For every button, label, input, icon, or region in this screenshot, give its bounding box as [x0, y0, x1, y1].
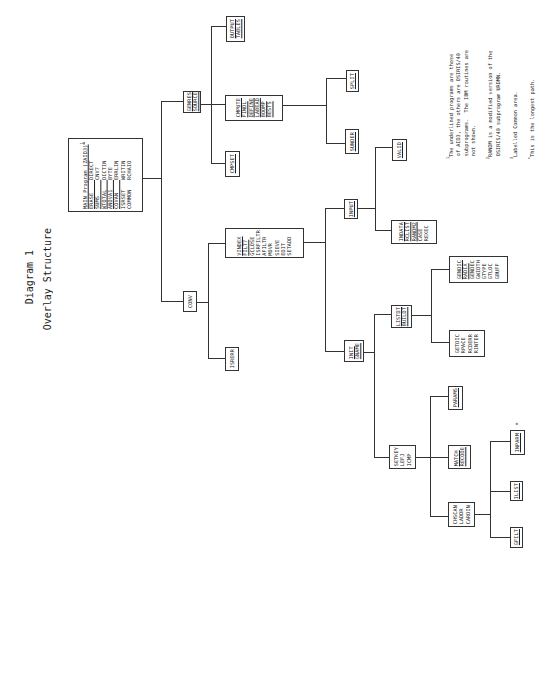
program-name: LADDR [458, 505, 464, 524]
node-genres: GENRESSOURCE [183, 91, 201, 113]
node-input: INPUT [344, 199, 358, 219]
program-name: SUNDER [349, 132, 355, 151]
diagram-subtitle: Overlay Structure [42, 228, 53, 330]
program-name: GFILT [513, 529, 519, 545]
node-ilist: ILIST [510, 481, 523, 501]
program-name: INPUT [348, 201, 354, 217]
program-name: CONV [187, 295, 193, 308]
program-name: SETADD [287, 230, 293, 256]
node-indata-text: INDATARCLISTRANDM2CASEREXEC [398, 222, 429, 241]
program-name: INIT [348, 343, 354, 359]
node-ilist-text: ILIST [513, 483, 519, 499]
program-name: BUILDT [402, 307, 408, 326]
program-name: CMPUTE [235, 98, 241, 117]
program-name: ISRFILTR [255, 230, 261, 256]
program-name: BOOMP [260, 98, 266, 117]
program-name: RINTER [473, 334, 479, 353]
node-valid-text: VALID [396, 142, 402, 158]
node-params-text: PARAMS [452, 388, 458, 407]
program-name: REXEC [423, 222, 429, 241]
node-init: INITGNAME [344, 340, 364, 362]
node-vindex: VINDEXFILT7GCLOSEISRFILTRAFILTRMOVRSIEVE… [225, 228, 304, 258]
program-name: BESTS [267, 98, 273, 117]
node-vindex-text: VINDEXFILT7GCLOSEISRFILTRAFILTRMOVRSIEVE… [236, 230, 293, 256]
program-name: GBUFF [494, 260, 500, 279]
diagram-title: Diagram 1 [24, 250, 35, 304]
node-getdic: GETDICRPACERCDERRRINTER [449, 330, 485, 357]
main-program-box: MAIN Program (ZAID3)1ERASE DIRECTSUMS CN… [68, 138, 143, 212]
program-name: FINDL [241, 98, 247, 117]
node-chscan: CHSCANLADDRCARDIN [448, 502, 475, 527]
program-name: OUTPUT [229, 19, 235, 38]
program-name: TABLES [236, 19, 242, 38]
node-listdt-text: LISTDTBUILDT [395, 307, 408, 326]
node-gendic-text: GENDICRADIXGENDECGWIDTHGTYPEGTLOCGBUFF [456, 260, 500, 279]
node-gendic: GENDICRADIXGENDECGWIDTHGTYPEGTLOCGBUFF [449, 256, 508, 283]
program-name: ISRERR [229, 349, 235, 368]
program-name: MATCH [453, 447, 459, 466]
node-cmpute: CMPUTEFINDLDEFINELABEADBOOMPBESTS [225, 95, 283, 121]
node-chscan-text: CHSCANLADDRCARDIN [452, 505, 471, 524]
node-genres-text: GENRESSOURCE [186, 92, 199, 111]
node-init-text: INITGNAME [348, 343, 361, 359]
node-gfilt: GFILT [510, 527, 523, 548]
program-name: VALID [396, 142, 402, 158]
program-name: INPARM [514, 433, 520, 452]
program-name: ILIST [513, 483, 519, 499]
program-name: GENRES [186, 92, 192, 111]
node-sunder-text: SUNDER [349, 132, 355, 151]
node-isrerr-text: ISRERR [229, 349, 235, 368]
node-inparm: INPARM [510, 430, 525, 455]
node-inparm-text: INPARM [514, 433, 520, 452]
node-output: OUTPUTTABLES [226, 16, 245, 42]
node-setkey-text: SETKEYLEFJICMP [393, 447, 412, 466]
node-cmpset: CMPSET [225, 151, 240, 177]
node-split: SPLIT [346, 70, 359, 92]
node-conv-text: CONV [187, 295, 193, 308]
footnotes: 1The underlined programs are those of AI… [444, 50, 543, 159]
program-name: SPLIT [349, 73, 355, 89]
program-name: RECODE [460, 447, 466, 466]
program-name: PARAMS [452, 388, 458, 407]
node-setkey: SETKEYLEFJICMP [389, 445, 416, 469]
node-indata: INDATARCLISTRANDM2CASEREXEC [391, 220, 437, 244]
node-match-text: MATCHRECODE [453, 447, 466, 466]
program-name: SOURCE [192, 92, 198, 111]
node-cmpset-text: CMPSET [229, 154, 235, 173]
node-input-text: INPUT [348, 201, 354, 217]
node-params: PARAMS [448, 386, 463, 410]
node-listdt: LISTDTBUILDT [391, 305, 412, 328]
node-match: MATCHRECODE [448, 445, 471, 469]
node-conv: CONV [183, 291, 197, 312]
node-valid: VALID [392, 139, 407, 161]
longest-path-marker: * [515, 421, 519, 428]
node-output-text: OUTPUTTABLES [229, 19, 242, 38]
program-name: LISTDT [395, 307, 401, 326]
node-gfilt-text: GFILT [513, 529, 519, 545]
main-program-text: MAIN Program (ZAID3)1ERASE DIRECTSUMS CN… [79, 142, 132, 209]
node-sunder: SUNDER [345, 129, 359, 154]
node-split-text: SPLIT [349, 73, 355, 89]
node-cmpute-text: CMPUTEFINDLDEFINELABEADBOOMPBESTS [235, 98, 273, 117]
node-getdic-text: GETDICRPACERCDERRRINTER [454, 334, 479, 353]
program-name: CARDIN [465, 505, 471, 524]
node-isrerr: ISRERR [225, 347, 239, 371]
program-name: CMPSET [229, 154, 235, 173]
program-name: ICMP [406, 447, 412, 466]
program-name: GNAME [354, 343, 360, 359]
